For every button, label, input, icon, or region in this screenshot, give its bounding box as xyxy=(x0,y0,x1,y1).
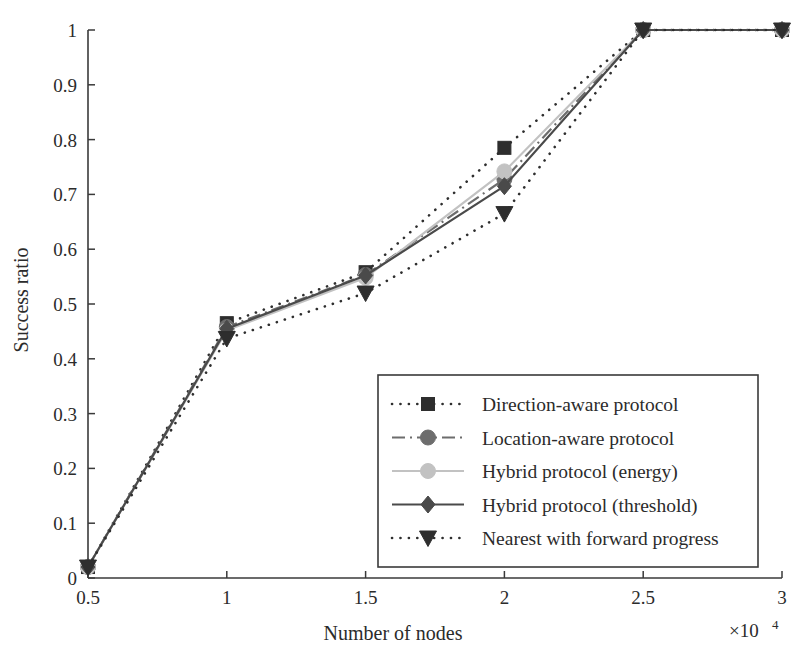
x-axis-multiplier: ×10 xyxy=(729,620,759,641)
legend-label: Direction-aware protocol xyxy=(482,394,679,415)
y-tick-label: 0.2 xyxy=(53,458,77,479)
y-tick-label: 0.4 xyxy=(53,349,77,370)
legend-label: Nearest with forward progress xyxy=(482,528,719,549)
data-point-marker xyxy=(496,207,513,223)
y-tick-label: 0.5 xyxy=(53,294,77,315)
y-tick-label: 0.3 xyxy=(53,404,77,425)
y-tick-label: 1 xyxy=(68,20,78,41)
chart-figure: 00.10.20.30.40.50.60.70.80.91 0.511.522.… xyxy=(0,0,807,661)
y-tick-label: 0.6 xyxy=(53,239,77,260)
y-tick-label: 0.9 xyxy=(53,75,77,96)
y-tick-label: 0.8 xyxy=(53,130,77,151)
x-tick-label: 2.5 xyxy=(631,587,655,608)
y-tick-label: 0 xyxy=(68,568,78,589)
data-point-marker xyxy=(497,164,512,179)
x-axis-ticks: 0.511.522.53 xyxy=(76,571,787,608)
legend-label: Hybrid protocol (threshold) xyxy=(482,495,698,517)
data-point-marker xyxy=(357,286,374,302)
x-axis-title: Number of nodes xyxy=(324,622,463,644)
y-tick-label: 0.7 xyxy=(53,184,77,205)
data-point-marker xyxy=(421,464,436,479)
success-ratio-line-chart: 00.10.20.30.40.50.60.70.80.91 0.511.522.… xyxy=(0,0,807,661)
y-tick-label: 0.1 xyxy=(53,513,77,534)
x-tick-label: 1.5 xyxy=(354,587,378,608)
legend-label: Hybrid protocol (energy) xyxy=(482,461,678,483)
x-tick-label: 2 xyxy=(500,587,510,608)
x-tick-label: 0.5 xyxy=(76,587,100,608)
data-point-marker xyxy=(498,141,511,154)
x-tick-label: 3 xyxy=(777,587,787,608)
data-point-marker xyxy=(422,398,435,411)
x-tick-label: 1 xyxy=(222,587,232,608)
y-axis-title: Success ratio xyxy=(10,248,32,353)
chart-legend: Direction-aware protocolLocation-aware p… xyxy=(378,375,758,567)
legend-label: Location-aware protocol xyxy=(482,428,675,449)
x-axis-multiplier-exponent: 4 xyxy=(772,617,779,632)
data-point-marker xyxy=(421,430,436,445)
